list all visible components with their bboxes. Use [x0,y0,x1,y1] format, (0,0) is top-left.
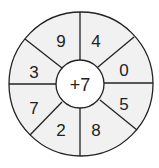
segment-value: 8 [91,121,100,140]
number-wheel-diagram: 9 4 0 5 8 2 7 3 +7 [0,0,159,168]
segment-value: 3 [29,63,38,82]
segment-value: 5 [119,95,128,114]
segment-value: 9 [56,32,65,51]
center-label: +7 [70,75,91,95]
segment-value: 0 [119,61,128,80]
segment-value: 7 [29,99,38,118]
segment-value: 4 [91,32,100,51]
segment-value: 2 [56,121,65,140]
